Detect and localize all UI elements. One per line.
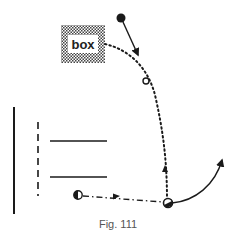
figure-caption: Fig. 111 <box>0 218 236 230</box>
player-right <box>164 199 173 208</box>
box-label: box <box>71 37 95 52</box>
dash-dot-pass <box>83 196 163 202</box>
play-diagram: box <box>0 0 236 234</box>
up-arrow-icon <box>162 165 168 172</box>
ball-arrow-icon <box>123 22 138 55</box>
box-obstacle: box <box>61 25 105 63</box>
curved-run-path <box>172 160 222 203</box>
player-left <box>74 191 82 199</box>
dotted-run-path <box>105 44 167 200</box>
hollow-ball-icon <box>143 78 149 84</box>
